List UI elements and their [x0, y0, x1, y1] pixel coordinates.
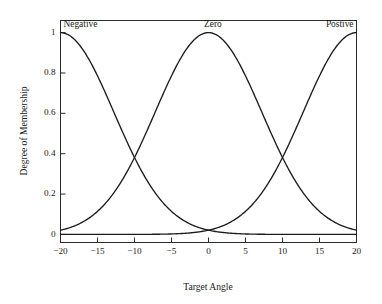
membership-function-plot: −20−15−10−505101520 00.20.40.60.81 Negat… [0, 0, 382, 304]
y-tick-label: 0.6 [44, 107, 56, 117]
y-tick-label: 0 [51, 229, 56, 239]
x-axis-title: Target Angle [183, 281, 233, 292]
y-tick-label: 0.8 [44, 67, 56, 77]
y-axis-title: Degree of Membership [18, 86, 29, 175]
series-label-postive: Postive [326, 19, 354, 29]
x-tick-label: 15 [315, 246, 325, 256]
x-tick-label: 20 [352, 246, 362, 256]
series-label-negative: Negative [64, 19, 98, 29]
x-tick-label: −20 [53, 246, 68, 256]
x-tick-label: 5 [243, 246, 248, 256]
x-axis-tick-labels: −20−15−10−505101520 [53, 246, 361, 256]
x-tick-label: −10 [127, 246, 142, 256]
x-tick-label: −5 [167, 246, 177, 256]
series-label-zero: Zero [204, 19, 222, 29]
plot-frame [61, 21, 357, 243]
x-tick-label: 0 [206, 246, 211, 256]
y-tick-label: 1 [51, 27, 56, 37]
x-tick-label: −15 [90, 246, 105, 256]
x-tick-label: 10 [278, 246, 288, 256]
y-tick-label: 0.2 [44, 188, 56, 198]
y-tick-label: 0.4 [44, 148, 56, 158]
chart-figure: −20−15−10−505101520 00.20.40.60.81 Negat… [0, 0, 382, 304]
